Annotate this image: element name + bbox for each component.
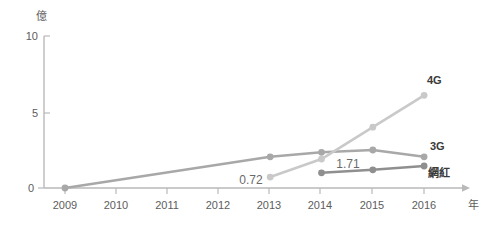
series-label-3g: 3G bbox=[430, 140, 445, 152]
y-tick-label-0: 0 bbox=[28, 182, 34, 194]
data-point bbox=[369, 147, 376, 154]
x-tick-label-2010: 2010 bbox=[104, 199, 128, 211]
data-point bbox=[421, 163, 428, 170]
data-point bbox=[369, 124, 376, 131]
series-label-4g: 4G bbox=[427, 74, 442, 86]
y-tick-group: 10 5 0 bbox=[26, 30, 50, 194]
chart-canvas: 10 5 0 億 2009 2010 2011 2012 2013 2014 2… bbox=[0, 0, 493, 228]
value-label-072: 0.72 bbox=[239, 173, 263, 187]
x-tick-label-2009: 2009 bbox=[53, 199, 77, 211]
data-point bbox=[318, 169, 325, 176]
line-chart: 10 5 0 億 2009 2010 2011 2012 2013 2014 2… bbox=[0, 0, 493, 228]
data-point bbox=[62, 185, 69, 192]
x-axis-arrow bbox=[462, 184, 470, 192]
series-wanghong bbox=[318, 163, 427, 177]
y-axis-unit-label: 億 bbox=[36, 10, 47, 23]
data-point bbox=[267, 153, 274, 160]
x-tick-label-2013: 2013 bbox=[257, 199, 281, 211]
x-tick-label-2016: 2016 bbox=[412, 199, 436, 211]
value-label-171: 1.71 bbox=[336, 157, 360, 171]
y-tick-label-5: 5 bbox=[32, 107, 38, 119]
y-tick-label-10: 10 bbox=[26, 30, 38, 42]
x-tick-label-2014: 2014 bbox=[308, 199, 332, 211]
series-wanghong-points bbox=[318, 163, 427, 177]
data-point bbox=[369, 166, 376, 173]
data-point bbox=[267, 174, 274, 181]
x-tick-group: 2009 2010 2011 2012 2013 2014 2015 2016 bbox=[53, 188, 436, 211]
x-tick-label-2015: 2015 bbox=[360, 199, 384, 211]
data-point bbox=[318, 149, 325, 156]
series-label-wanghong: 網紅 bbox=[428, 166, 450, 180]
x-tick-label-2011: 2011 bbox=[155, 199, 179, 211]
x-tick-label-2012: 2012 bbox=[206, 199, 230, 211]
data-point bbox=[318, 156, 325, 163]
data-point bbox=[421, 92, 428, 99]
x-axis-unit-label: 年 bbox=[468, 198, 479, 212]
data-point bbox=[421, 153, 428, 160]
